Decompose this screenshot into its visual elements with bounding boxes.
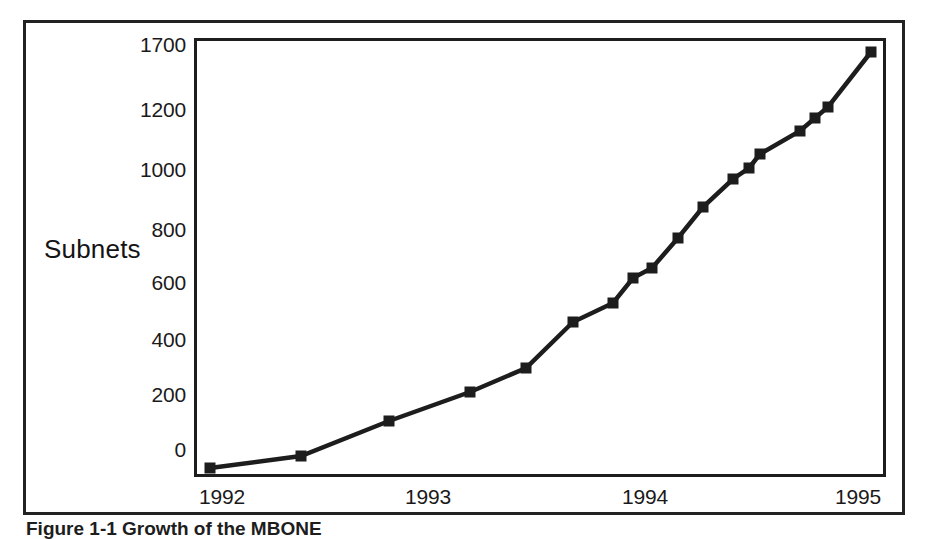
- figure-caption: Figure 1-1 Growth of the MBONE: [26, 519, 322, 539]
- x-tick-label: 1992: [199, 486, 245, 507]
- x-tick-label: 1994: [622, 486, 668, 507]
- x-tick-label: 1995: [835, 486, 881, 507]
- x-tick-label: 1993: [405, 486, 451, 507]
